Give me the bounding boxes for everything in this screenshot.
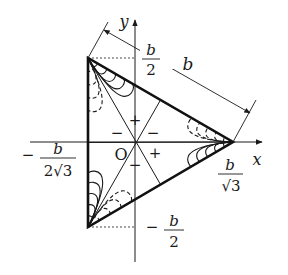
triangle-contour-diagram: b y x O b 2 − b 2√3 b √3 − b 2 + − − + −: [0, 0, 288, 275]
svg-text:b: b: [225, 156, 235, 174]
label-right-b-over-sqrt3: b √3: [218, 156, 243, 195]
label-top-b-over-2: b 2: [140, 41, 162, 79]
svg-text:b: b: [146, 41, 156, 59]
extension-line-top: [88, 22, 108, 58]
origin-label: O: [114, 145, 127, 164]
x-axis-label: x: [252, 150, 261, 169]
svg-text:−: −: [146, 218, 159, 236]
sign-right: +: [149, 144, 162, 162]
svg-text:b: b: [169, 212, 179, 230]
label-bottom-neg-b-over-2: − b 2: [146, 212, 184, 251]
label-left-neg-b-over-2sqrt3: − b 2√3: [22, 140, 76, 180]
svg-text:2√3: 2√3: [44, 162, 73, 180]
svg-text:b: b: [53, 140, 63, 158]
dimension-label-b: b: [183, 54, 194, 74]
nodal-lines: [88, 58, 233, 227]
contour-solid: [88, 58, 133, 96]
sign-upper-right: −: [147, 124, 160, 142]
svg-text:2: 2: [169, 233, 179, 251]
svg-text:−: −: [22, 146, 35, 164]
svg-text:2: 2: [146, 61, 156, 79]
nodal-line: [88, 142, 233, 143]
dimension-arrow-b: [104, 30, 250, 113]
svg-text:√3: √3: [221, 177, 240, 195]
sign-bottom: −: [129, 156, 142, 174]
y-axis-label: y: [118, 12, 129, 31]
sign-upper-left: −: [111, 124, 124, 142]
sign-top: +: [129, 111, 142, 129]
extension-line-right: [233, 100, 256, 142]
